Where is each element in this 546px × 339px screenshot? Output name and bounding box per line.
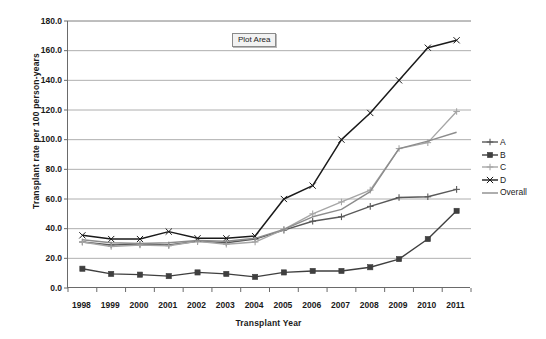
data-point: [253, 274, 258, 279]
data-point: [281, 270, 286, 275]
y-axis-tick-label: 120.0: [16, 106, 62, 115]
series-line: [82, 111, 456, 246]
y-axis-tick-label: 60.0: [16, 195, 62, 204]
legend-marker-x-icon: [482, 174, 498, 186]
x-axis-tick-label: 2011: [436, 300, 476, 310]
data-point: [487, 152, 492, 157]
data-point: [396, 256, 401, 261]
legend-label: D: [498, 174, 506, 187]
y-axis-tick-label: 100.0: [16, 135, 62, 144]
legend-marker-none-icon: [482, 187, 498, 199]
x-axis-title: Transplant Year: [67, 318, 470, 328]
y-axis-tick-labels: 0.020.040.060.080.0100.0120.0140.0160.01…: [14, 0, 62, 300]
data-point: [425, 236, 430, 241]
legend-label: A: [498, 136, 506, 149]
y-axis-tick-label: 180.0: [16, 17, 62, 26]
legend-marker-plus-icon: [482, 136, 498, 148]
data-point: [80, 266, 85, 271]
legend-marker-square-icon: [482, 149, 498, 161]
y-axis-tick-label: 80.0: [16, 165, 62, 174]
y-axis-tick-label: 160.0: [16, 46, 62, 55]
data-point: [195, 270, 200, 275]
legend-label: C: [498, 161, 506, 174]
chart-legend: ABCDOverall: [482, 136, 544, 199]
y-axis-tick-label: 0.0: [16, 284, 62, 293]
plot-area[interactable]: [67, 21, 470, 288]
y-axis-tick-label: 20.0: [16, 254, 62, 263]
y-axis-tick-label: 40.0: [16, 224, 62, 233]
data-point: [310, 268, 315, 273]
plot-svg: [68, 21, 471, 288]
data-point: [224, 271, 229, 276]
data-point: [137, 272, 142, 277]
legend-item-d[interactable]: D: [482, 174, 544, 187]
legend-item-c[interactable]: C: [482, 161, 544, 174]
legend-item-b[interactable]: B: [482, 149, 544, 162]
line-chart: Transplant rate per 100 person-years 0.0…: [0, 0, 546, 339]
data-point: [454, 208, 459, 213]
data-point: [339, 268, 344, 273]
legend-item-a[interactable]: A: [482, 136, 544, 149]
data-point: [166, 274, 171, 279]
data-point: [368, 265, 373, 270]
y-axis-tick-label: 140.0: [16, 76, 62, 85]
legend-item-overall[interactable]: Overall: [482, 186, 544, 199]
legend-label: B: [498, 149, 506, 162]
legend-marker-plus-icon: [482, 161, 498, 173]
data-point: [109, 271, 114, 276]
plot-area-tooltip: Plot Area: [232, 33, 276, 47]
legend-label: Overall: [498, 186, 527, 199]
